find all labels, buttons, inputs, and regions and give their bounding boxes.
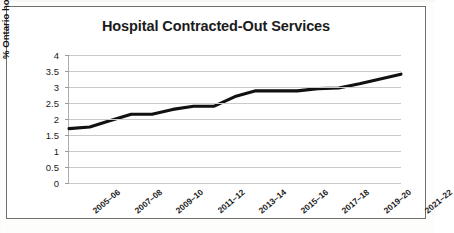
plot-area bbox=[69, 55, 401, 183]
x-axis-tick-label: 2017–18 bbox=[340, 187, 371, 216]
chart-container: Hospital Contracted-Out Services % Ontar… bbox=[6, 6, 426, 219]
gridline bbox=[69, 135, 401, 136]
y-axis-tick-label: 2.5 bbox=[46, 98, 59, 109]
x-axis-tick-label: 2021–22 bbox=[423, 187, 454, 216]
y-axis-tick bbox=[65, 71, 69, 72]
y-axis-tick-label: 0.5 bbox=[46, 162, 59, 173]
y-axis-tick-label: 1 bbox=[54, 146, 59, 157]
gridline bbox=[69, 71, 401, 72]
x-axis-tick-label: 2009–10 bbox=[174, 187, 205, 216]
y-axis-tick-label: 2 bbox=[54, 114, 59, 125]
y-axis-tick bbox=[65, 87, 69, 88]
y-axis-tick-label: 1.5 bbox=[46, 130, 59, 141]
y-axis-tick-label: 3 bbox=[54, 82, 59, 93]
x-axis-tick-label: 2019–20 bbox=[381, 187, 412, 216]
x-axis-tick-labels: 2005–062007–082009–102011–122013–142015–… bbox=[7, 183, 427, 229]
y-axis-tick-labels: 43.532.521.510.50 bbox=[7, 55, 63, 183]
chart-title: Hospital Contracted-Out Services bbox=[7, 18, 425, 34]
gridline bbox=[69, 87, 401, 88]
x-axis-tick-label: 2015–16 bbox=[298, 187, 329, 216]
x-axis-tick-label: 2005–06 bbox=[91, 187, 122, 216]
gridline bbox=[69, 119, 401, 120]
y-axis-tick bbox=[65, 167, 69, 168]
y-axis-tick-label: 4 bbox=[54, 50, 59, 61]
y-axis-tick-label: 3.5 bbox=[46, 66, 59, 77]
y-axis-title: % Ontario hospital spending bbox=[0, 0, 11, 59]
y-axis-tick bbox=[65, 119, 69, 120]
y-axis-tick bbox=[65, 103, 69, 104]
x-axis-tick-label: 2007–08 bbox=[132, 187, 163, 216]
gridline bbox=[69, 55, 401, 56]
y-axis-tick bbox=[65, 135, 69, 136]
y-axis-tick bbox=[65, 151, 69, 152]
x-axis-tick-label: 2013–14 bbox=[257, 187, 288, 216]
gridline bbox=[69, 151, 401, 152]
y-axis-tick bbox=[65, 55, 69, 56]
gridline bbox=[69, 167, 401, 168]
x-axis-tick-label: 2011–12 bbox=[215, 187, 246, 215]
gridline bbox=[69, 103, 401, 104]
